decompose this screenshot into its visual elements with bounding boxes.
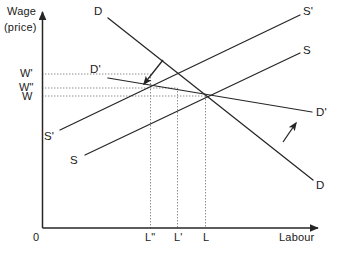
diagram-root: Wage (price) Labour 0 W' W" W L" L' L D … [0,0,343,254]
x-tick-label-l-prime: L' [174,231,183,243]
origin-label: 0 [33,231,39,243]
curve-label-demand-top: D [94,5,103,18]
x-tick-label-l: L [203,231,209,243]
arrow-demand-shift-down-icon [144,60,163,84]
y-axis-label-line2: (price) [4,21,37,33]
curve-label-supply-shifted-top: S' [303,5,313,18]
diagram-canvas [0,0,343,254]
curve-label-supply-shifted-left: S' [44,130,54,143]
y-tick-label-w-prime: W' [20,67,33,79]
curve-label-supply-original-left: S [70,154,78,167]
x-axis-label: Labour [279,231,314,243]
curve-demand-original [108,18,313,180]
vertical-guides [151,74,206,228]
curve-label-supply-original-top: S [303,44,311,57]
curves [60,15,313,180]
caption-fragment [0,246,343,254]
axes [43,12,319,228]
y-tick-label-w: W [22,90,33,102]
curve-label-demand-shifted-right: D' [316,106,327,119]
curve-demand-shifted [108,78,312,112]
curve-label-demand-shifted-inner: D' [90,63,101,76]
horizontal-guides [42,74,206,96]
curve-label-demand-bottom: D [316,179,325,192]
arrow-demand-shift-up-icon [283,123,296,142]
y-axis-label-line1: Wage [7,5,36,17]
x-tick-label-l-double-prime: L" [145,231,155,243]
annotation-arrows [144,60,296,142]
